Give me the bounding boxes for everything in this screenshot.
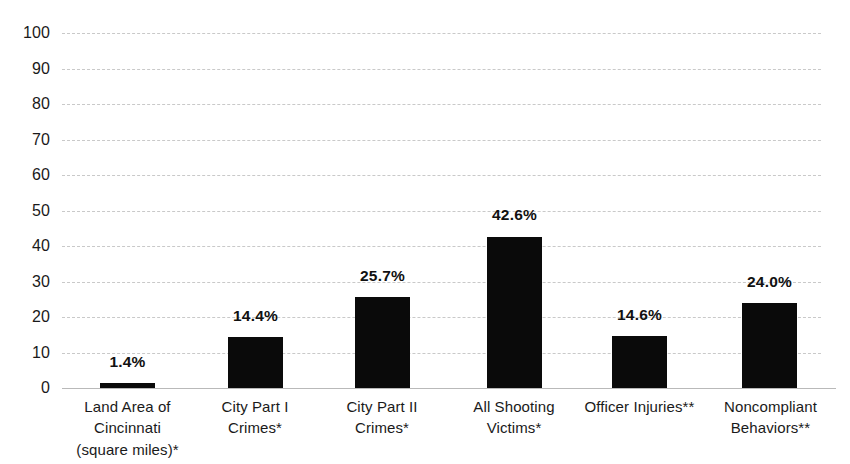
bar-value-label: 24.0% xyxy=(710,274,830,290)
bar-all-shooting-victims[interactable] xyxy=(487,237,542,388)
bar-value-label: 14.6% xyxy=(580,307,700,323)
bar-city-part-ii-crimes[interactable] xyxy=(355,297,410,388)
bar-value-label: 42.6% xyxy=(455,207,575,223)
bars-layer: 1.4% 14.4% 25.7% 42.6% 14.6% 24.0% xyxy=(0,0,850,464)
x-label-line: All Shooting xyxy=(449,396,579,417)
x-axis-category-labels: Land Area of Cincinnati (square miles)* … xyxy=(0,396,850,464)
x-label-line: Cincinnati xyxy=(57,417,198,438)
x-label-line: Land Area of xyxy=(57,396,198,417)
x-label-line: Crimes* xyxy=(190,417,320,438)
bar-officer-injuries[interactable] xyxy=(612,336,667,388)
bar-value-label: 1.4% xyxy=(68,354,188,370)
x-label-line: (square miles)* xyxy=(57,439,198,460)
x-label-city-part-ii-crimes: City Part II Crimes* xyxy=(317,396,447,439)
bar-value-label: 25.7% xyxy=(323,268,443,284)
x-label-noncompliant-behaviors: Noncompliant Behaviors** xyxy=(703,396,838,439)
bar-chart: 100 90 80 70 60 50 40 30 20 10 0 1.4% 14… xyxy=(0,0,850,464)
x-label-line: Behaviors** xyxy=(703,417,838,438)
x-label-line: Noncompliant xyxy=(703,396,838,417)
bar-land-area-of-cincinnati[interactable] xyxy=(100,383,155,388)
x-label-officer-injuries: Officer Injuries** xyxy=(572,396,707,417)
bar-value-label: 14.4% xyxy=(196,308,316,324)
x-label-line: City Part I xyxy=(190,396,320,417)
x-label-land-area-of-cincinnati: Land Area of Cincinnati (square miles)* xyxy=(57,396,198,460)
x-label-all-shooting-victims: All Shooting Victims* xyxy=(449,396,579,439)
x-label-line: Victims* xyxy=(449,417,579,438)
x-label-line: Crimes* xyxy=(317,417,447,438)
bar-city-part-i-crimes[interactable] xyxy=(228,337,283,388)
x-label-line: Officer Injuries** xyxy=(572,396,707,417)
x-label-city-part-i-crimes: City Part I Crimes* xyxy=(190,396,320,439)
bar-noncompliant-behaviors[interactable] xyxy=(742,303,797,388)
x-label-line: City Part II xyxy=(317,396,447,417)
